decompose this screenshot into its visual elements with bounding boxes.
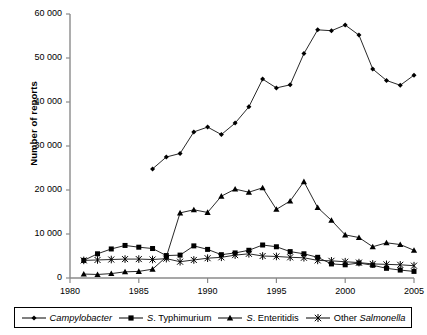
data-point-marker — [31, 315, 36, 320]
data-point-marker — [178, 253, 183, 258]
data-point-marker — [191, 129, 196, 134]
data-point-marker — [287, 198, 293, 204]
data-point-marker — [329, 28, 334, 33]
x-axis-tick-label: 2005 — [394, 286, 427, 296]
y-axis-tick-label: 10 000 — [16, 228, 62, 238]
legend-item-label: Campylobacter — [50, 313, 113, 323]
data-point-marker — [260, 77, 265, 82]
data-point-marker — [260, 185, 266, 191]
legend-item[interactable]: Campylobacter — [18, 312, 116, 324]
series-1 — [150, 23, 416, 172]
x-axis-tick-label: 1995 — [256, 286, 296, 296]
diamond-icon — [21, 312, 47, 324]
data-point-marker — [218, 193, 224, 199]
data-point-marker — [315, 205, 321, 211]
series-line — [84, 182, 414, 275]
data-point-marker — [232, 186, 238, 192]
x-axis-tick-label: 1980 — [50, 286, 90, 296]
data-point-marker — [301, 51, 306, 56]
square-icon — [118, 312, 144, 324]
series-3 — [81, 179, 417, 277]
data-point-marker — [191, 207, 197, 213]
chart-container: Number of reports 010 00020 00030 00040 … — [0, 0, 427, 335]
line-chart-plot — [0, 0, 427, 335]
series-2 — [81, 243, 416, 274]
legend-item[interactable]: Other Salmonella — [302, 312, 409, 324]
data-point-marker — [95, 251, 100, 256]
legend-item-label: S. Typhimurium — [147, 313, 211, 323]
y-axis-tick-label: 40 000 — [16, 96, 62, 106]
series-4 — [81, 250, 417, 269]
data-point-marker — [288, 249, 293, 254]
data-point-marker — [274, 244, 279, 249]
data-point-marker — [288, 82, 293, 87]
data-point-marker — [178, 151, 183, 156]
y-axis-tick-label: 50 000 — [16, 52, 62, 62]
legend-item-label: S. Enteritidis — [246, 313, 298, 323]
y-axis-tick-label: 60 000 — [16, 8, 62, 18]
data-point-marker — [128, 315, 133, 320]
data-point-marker — [191, 243, 196, 248]
y-axis-tick-label: 0 — [16, 272, 62, 282]
data-point-marker — [150, 246, 155, 251]
legend-item[interactable]: S. Typhimurium — [115, 312, 214, 324]
chart-legend: CampylobacterS. TyphimuriumS. Enteritidi… — [14, 307, 412, 328]
data-point-marker — [136, 245, 141, 250]
data-point-marker — [260, 243, 265, 248]
data-point-marker — [315, 27, 320, 32]
data-point-marker — [274, 85, 279, 90]
x-axis-tick-label: 2000 — [325, 286, 365, 296]
data-point-marker — [205, 247, 210, 252]
star-icon — [305, 312, 331, 324]
data-point-marker — [412, 269, 417, 274]
x-axis-tick-label: 1990 — [188, 286, 228, 296]
data-point-marker — [273, 206, 279, 212]
series-line — [153, 25, 414, 169]
data-point-marker — [301, 179, 307, 185]
x-axis-tick-label: 1985 — [119, 286, 159, 296]
data-point-marker — [123, 243, 128, 248]
y-axis-tick-label: 30 000 — [16, 140, 62, 150]
y-axis-tick-label: 20 000 — [16, 184, 62, 194]
legend-item[interactable]: S. Enteritidis — [214, 312, 301, 324]
data-point-marker — [205, 125, 210, 130]
triangle-icon — [217, 312, 243, 324]
data-point-marker — [109, 246, 114, 251]
legend-item-label: Other Salmonella — [334, 313, 406, 323]
data-point-marker — [383, 240, 389, 246]
data-point-marker — [411, 247, 417, 253]
